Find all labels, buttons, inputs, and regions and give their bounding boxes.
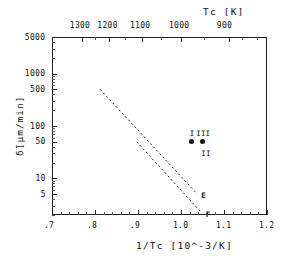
x-tick-label: 1.2 xyxy=(259,221,274,230)
x-tick-label: .8 xyxy=(87,221,97,230)
data-point-label: III xyxy=(196,129,210,138)
data-point-label: II xyxy=(201,149,210,158)
x-tick-label: 1.0 xyxy=(173,221,188,230)
curve-label-e: E xyxy=(201,191,206,200)
curve-label-f: F xyxy=(206,210,211,219)
x-tick-label: .9 xyxy=(130,221,140,230)
x-tick-label: 1.1 xyxy=(216,221,231,230)
x-axis-title: 1/Tc [10^-3/K] xyxy=(136,240,233,251)
chart-root: Tc [K] 1300120011001000900 δ̇[μm/min] 50… xyxy=(0,0,289,263)
data-point-label: I xyxy=(190,129,195,138)
x-tick-label: .7 xyxy=(44,221,54,230)
curve-e xyxy=(100,89,197,194)
curve-f xyxy=(137,142,202,213)
